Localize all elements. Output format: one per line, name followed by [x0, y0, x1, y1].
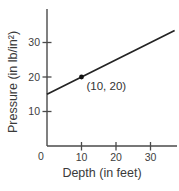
y-tick-label: 10: [28, 105, 40, 117]
y-tick-label: 20: [28, 71, 40, 83]
point-annotation: (10, 20): [87, 80, 127, 92]
origin-tick-label: 0: [38, 150, 44, 162]
pressure-depth-figure: 102030102030 0 (10, 20) Depth (in feet) …: [0, 0, 179, 191]
x-tick-label: 20: [110, 151, 122, 163]
x-tick-label: 10: [76, 151, 88, 163]
y-axis-label: Pressure (in lb/in²): [6, 31, 20, 133]
annotated-point-dot: [79, 75, 84, 80]
x-tick-label: 30: [145, 151, 157, 163]
pressure-depth-chart: 102030102030 0 (10, 20) Depth (in feet) …: [0, 0, 179, 191]
x-axis-label: Depth (in feet): [62, 166, 141, 180]
y-tick-label: 30: [28, 36, 40, 48]
